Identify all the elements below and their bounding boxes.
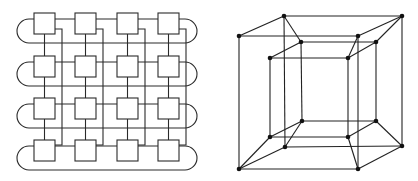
hypercube-vertex-dot: [356, 34, 361, 39]
hypercube-vertex-dot: [237, 167, 242, 172]
processor-node-box: [75, 140, 96, 161]
torus-mesh-canvas: [0, 0, 210, 181]
processor-node-box: [117, 98, 138, 119]
hypercube-edge: [285, 146, 402, 147]
hypercube-edge: [348, 121, 376, 137]
processor-node-box: [158, 98, 179, 119]
hypercube-vertex-dot: [283, 145, 288, 150]
hypercube-vertex-dot: [299, 40, 304, 45]
hypercube-edge: [358, 16, 402, 36]
hypercube-edge: [376, 16, 402, 42]
hypercube-edge: [301, 42, 302, 121]
hypercube-vertex-dot: [374, 119, 379, 124]
hypercube-edge: [358, 146, 402, 169]
hypercube-edge: [284, 16, 301, 42]
processor-node-box: [75, 13, 96, 34]
processor-node-box: [75, 56, 96, 77]
processor-node-box: [117, 13, 138, 34]
hypercube-vertex-dot: [346, 56, 351, 61]
hypercube-edge: [239, 16, 284, 36]
hypercube-vertex-dot: [237, 34, 242, 39]
hypercube-vertex-dot: [356, 167, 361, 172]
hypercube-vertex-dot: [282, 14, 287, 19]
tesseract-diagram: [210, 0, 418, 181]
processor-node-box: [158, 140, 179, 161]
processor-node-box: [34, 98, 55, 119]
processor-node-box: [34, 13, 55, 34]
hypercube-vertex-dot: [374, 40, 379, 45]
tesseract-canvas: [210, 0, 418, 181]
hypercube-edge: [376, 121, 402, 146]
processor-node-box: [158, 13, 179, 34]
hypercube-vertex-dot: [400, 14, 405, 19]
hypercube-vertex-dot: [268, 56, 273, 61]
hypercube-edge: [270, 42, 301, 58]
processor-node-box: [158, 56, 179, 77]
hypercube-vertex-dot: [300, 119, 305, 124]
processor-node-box: [75, 98, 96, 119]
hypercube-vertex-dot: [346, 135, 351, 140]
torus-mesh-diagram: [0, 0, 210, 181]
processor-node-box: [117, 140, 138, 161]
hypercube-vertex-dot: [400, 144, 405, 149]
processor-node-box: [34, 56, 55, 77]
processor-node-box: [34, 140, 55, 161]
hypercube-edge: [348, 137, 358, 169]
processor-node-box: [117, 56, 138, 77]
hypercube-edge: [239, 147, 285, 169]
hypercube-edge: [239, 137, 270, 169]
hypercube-vertex-dot: [268, 135, 273, 140]
